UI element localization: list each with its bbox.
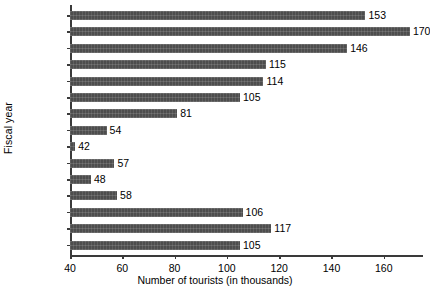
bar-row: 2001/0258	[70, 187, 423, 203]
bar-value-label: 42	[78, 139, 90, 153]
bar-value-label: 106	[246, 205, 264, 219]
bar-value-label: 48	[94, 172, 106, 186]
bar-row: 2003/0457	[70, 155, 423, 171]
bar	[70, 224, 271, 233]
bar-value-label: 81	[180, 106, 192, 120]
bar-value-label: 105	[243, 90, 261, 104]
bar	[70, 142, 75, 151]
bar	[70, 93, 240, 102]
bar-value-label: 153	[368, 8, 386, 22]
bar-value-label: 115	[269, 57, 286, 71]
bar	[70, 175, 91, 184]
bar-row: 2000/01106	[70, 204, 423, 220]
bar-value-label: 105	[243, 238, 261, 252]
bar-value-label: 114	[266, 74, 283, 88]
bar	[70, 126, 107, 135]
bar-row: 1999/00117	[70, 220, 423, 236]
bar	[70, 11, 365, 20]
x-axis-title: Number of tourists (in thousands)	[0, 274, 430, 286]
y-axis-title-label: Fiscal year	[2, 102, 14, 154]
x-axis-tick-label: 140	[311, 261, 351, 275]
y-axis-title: Fiscal year	[0, 0, 16, 256]
bar-row: 2009/10115	[70, 56, 423, 72]
bar	[70, 208, 243, 217]
x-axis-tick-label: 80	[155, 261, 195, 275]
bar	[70, 109, 177, 118]
bar-value-label: 146	[350, 41, 368, 55]
bar-row: 2008/09114	[70, 73, 423, 89]
bar-row: 2010/11146	[70, 40, 423, 56]
bar	[70, 27, 410, 36]
bar	[70, 44, 347, 53]
bar-chart: Fiscal year 2012/131532011/121702010/111…	[0, 0, 430, 296]
bar	[70, 77, 263, 86]
bar-value-label: 117	[274, 221, 291, 235]
bar-row: 2007/08105	[70, 89, 423, 105]
bar-row: 2006/0781	[70, 105, 423, 121]
bar	[70, 191, 117, 200]
x-axis-line	[70, 255, 423, 257]
bar-value-label: 57	[117, 156, 129, 170]
plot-area: 2012/131532011/121702010/111462009/10115…	[70, 5, 423, 256]
x-axis-tick-label: 100	[207, 261, 247, 275]
bar-row: 2012/13153	[70, 7, 423, 23]
x-axis-tick-label: 60	[102, 261, 142, 275]
bar	[70, 241, 240, 250]
bar-value-label: 170	[413, 24, 430, 38]
bar-value-label: 54	[110, 123, 122, 137]
bar-row: 2005/0654	[70, 122, 423, 138]
bar-value-label: 58	[120, 188, 132, 202]
bar-row: 1998/99105	[70, 237, 423, 253]
x-axis-tick-label: 160	[364, 261, 404, 275]
bar	[70, 60, 266, 69]
x-axis-tick-label: 40	[50, 261, 90, 275]
bar-row: 2004/0542	[70, 138, 423, 154]
bar-row: 2011/12170	[70, 23, 423, 39]
bar-row: 2002/0348	[70, 171, 423, 187]
x-axis-tick-label: 120	[259, 261, 299, 275]
bar	[70, 159, 114, 168]
